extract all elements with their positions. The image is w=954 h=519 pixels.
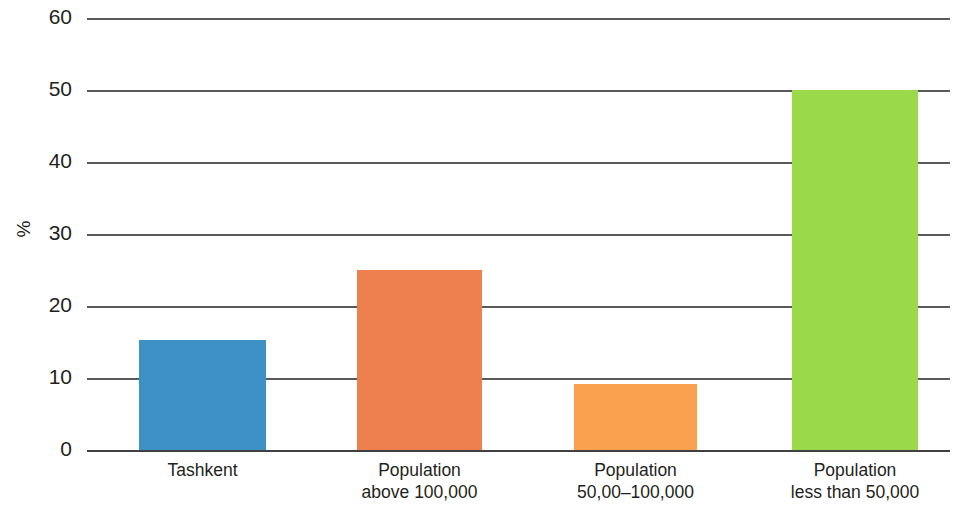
x-axis-tick-label-line2: 50,00–100,000	[521, 481, 751, 503]
x-axis-tick-label: Populationless than 50,000	[740, 459, 954, 504]
y-axis-tick-label: 20	[2, 294, 72, 315]
y-axis-tick-label: 50	[2, 78, 72, 99]
x-axis-tick-label-line2: above 100,000	[305, 481, 535, 503]
x-axis-tick-label-line1: Population	[521, 459, 751, 481]
bar-chart: % 6050403020100 TashkentPopulationabove …	[0, 0, 954, 519]
y-axis-tick-label: 0	[2, 438, 72, 459]
x-axis-tick-label-line1: Population	[740, 459, 954, 481]
bar	[139, 340, 266, 450]
bar	[574, 384, 697, 450]
y-axis-tick-label: 10	[2, 366, 72, 387]
bar	[357, 270, 482, 450]
x-axis-tick-label: Populationabove 100,000	[305, 459, 535, 504]
x-axis-tick-label-line1: Population	[305, 459, 535, 481]
x-axis-tick-label-line1: Tashkent	[88, 459, 318, 481]
x-axis-tick-label: Tashkent	[88, 459, 318, 481]
x-axis-tick-label-line2: less than 50,000	[740, 481, 954, 503]
x-axis-tick-label: Population50,00–100,000	[521, 459, 751, 504]
y-axis-tick-label: 60	[2, 6, 72, 27]
bar	[792, 90, 918, 450]
y-axis-tick-label: 30	[2, 222, 72, 243]
plot-area: 6050403020100 TashkentPopulationabove 10…	[0, 0, 954, 519]
y-axis-tick-label: 40	[2, 150, 72, 171]
axis-baseline	[87, 450, 950, 452]
gridline	[87, 18, 950, 20]
